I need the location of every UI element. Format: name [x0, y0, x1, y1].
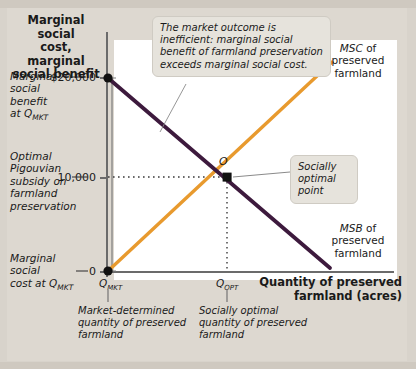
- label-msc-at-qmkt-line1: Marginal: [10, 252, 55, 264]
- label-subsidy-line2: Pigouvian: [10, 162, 61, 174]
- msb-curve-label-abbr: MSB: [340, 222, 363, 234]
- label-msc-at-qmkt-line3: cost at Q: [10, 277, 57, 289]
- msc-curve-label: MSC of preserved farmland: [320, 42, 396, 79]
- note-optimal-line1: Socially optimal: [199, 305, 278, 316]
- label-msb-at-qmkt: Marginal social benefit at QMKT: [10, 70, 72, 125]
- optimum-point-label: O: [219, 155, 228, 168]
- label-subsidy-line1: Optimal: [10, 150, 52, 162]
- label-subsidy-line3: subsidy on: [10, 175, 66, 187]
- label-subsidy-line5: preservation: [10, 200, 76, 212]
- msb-curve-label-of: of: [363, 222, 376, 234]
- qmkt-origin-dot: [103, 266, 112, 275]
- callout-inefficiency-line2: inefficient: marginal social: [160, 34, 293, 45]
- msc-curve-label-of: of: [363, 42, 376, 54]
- msb-curve-label: MSB of preserved farmland: [320, 222, 396, 259]
- note-market-line2: quantity of preserved: [78, 317, 186, 328]
- label-msb-at-qmkt-line1: Marginal: [10, 70, 55, 82]
- note-optimal-line3: farmland: [199, 329, 244, 340]
- callout-inefficiency-line1: The market outcome is: [160, 22, 276, 33]
- note-socially-optimal-quantity: Socially optimal quantity of preserved f…: [199, 305, 309, 342]
- label-msc-at-qmkt-line2: social: [10, 264, 40, 276]
- label-msc-at-qmkt: Marginal social cost at QMKT: [10, 252, 78, 294]
- x-axis-title-line1: Quantity of preserved: [259, 275, 402, 289]
- msb-curve-label-line3: farmland: [334, 247, 381, 259]
- label-msb-at-qmkt-line4: at Q: [10, 107, 32, 119]
- label-msb-at-qmkt-sub: MKT: [32, 113, 48, 122]
- label-msb-at-qmkt-line2: social: [10, 82, 40, 94]
- figure-frame: $20,000 10,000 0 Marginal soc: [0, 0, 416, 369]
- label-msb-at-qmkt-line3: benefit: [10, 95, 47, 107]
- label-subsidy-line4: farmland: [10, 187, 57, 199]
- label-msc-at-qmkt-sub: MKT: [57, 283, 73, 292]
- msc-curve-label-abbr: MSC: [340, 42, 363, 54]
- msc-curve-label-line2: preserved: [332, 54, 385, 66]
- callout-inefficiency-line3: benefit of farmland preservation: [160, 46, 323, 57]
- qmkt-axis-marker: QMKT: [99, 277, 122, 292]
- note-market-line1: Market-determined: [78, 305, 174, 316]
- msc-curve-label-line3: farmland: [334, 67, 381, 79]
- socially-optimal-callout-leader: [233, 172, 290, 177]
- callout-socially-optimal-point: Socially optimal point: [290, 155, 358, 204]
- qmkt-axis-marker-sub: MKT: [107, 284, 122, 292]
- x-axis-title-line2: farmland (acres): [294, 289, 402, 303]
- note-market-line3: farmland: [78, 329, 123, 340]
- msb-at-qmkt-dot: [103, 73, 112, 82]
- callout-sop-line3: point: [298, 185, 324, 196]
- msb-curve-label-line2: preserved: [332, 234, 385, 246]
- inefficiency-callout-leader: [160, 84, 186, 132]
- label-pigouvian-subsidy: Optimal Pigouvian subsidy on farmland pr…: [10, 150, 76, 212]
- callout-inefficiency: The market outcome is inefficient: margi…: [152, 16, 331, 77]
- callout-sop-line2: optimal: [298, 173, 336, 184]
- callout-inefficiency-line4: exceeds marginal social cost.: [160, 59, 308, 70]
- y-axis-title-line2: cost, marginal: [27, 40, 84, 68]
- pigouvian-subsidy-bracket: [112, 78, 116, 271]
- callout-sop-line1: Socially: [298, 161, 336, 172]
- note-market-determined-quantity: Market-determined quantity of preserved …: [78, 305, 188, 342]
- x-axis-title: Quantity of preserved farmland (acres): [232, 276, 402, 303]
- socially-optimal-point-marker: [223, 173, 232, 182]
- note-optimal-line2: quantity of preserved: [199, 317, 307, 328]
- y-axis-title-line1: Marginal social: [28, 13, 85, 41]
